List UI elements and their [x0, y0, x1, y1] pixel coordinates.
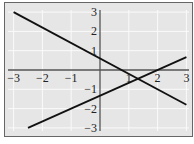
x-tick-label: −3	[7, 71, 20, 85]
y-tick-label: −3	[84, 121, 97, 135]
x-tick-label: −2	[36, 71, 49, 85]
x-tick-label: 2	[155, 71, 161, 85]
chart: −3−2−1123321−1−2−3	[0, 0, 194, 144]
y-tick-label: 3	[91, 5, 97, 19]
y-tick-label: 2	[91, 24, 97, 38]
y-tick-label: −1	[84, 82, 97, 96]
x-tick-label: 1	[126, 71, 132, 85]
y-tick-label: −2	[84, 102, 97, 116]
x-tick-label: −1	[65, 71, 78, 85]
y-tick-label: 1	[91, 44, 97, 58]
x-tick-label: 3	[183, 71, 189, 85]
